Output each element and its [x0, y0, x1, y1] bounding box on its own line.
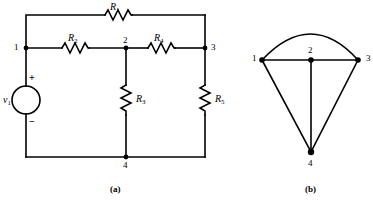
resistor-label-R4: R4 — [154, 33, 164, 45]
resistor-R3-symbol — [121, 85, 131, 115]
resistor-label-R1: R1 — [110, 2, 120, 14]
resistor-label-R2: R2 — [68, 33, 78, 45]
figure-container: R1 R2 R3 R4 R5 v1 + − 1 2 3 4 (a) 1 2 3 … — [0, 0, 373, 202]
figure-vector-layer — [0, 0, 373, 202]
wire-top-rail — [26, 15, 205, 48]
polarity-plus-sign: + — [29, 73, 35, 83]
junction-dot-node1 — [24, 46, 29, 51]
graph-node-dot-1 — [259, 57, 265, 63]
resistor-subscript-R5: 5 — [221, 98, 225, 106]
resistor-subscript-R2: 2 — [74, 37, 78, 45]
resistor-subscript-R1: 1 — [116, 6, 120, 14]
graph-node-label-3: 3 — [366, 54, 371, 63]
resistor-R5-symbol — [200, 85, 210, 115]
graph-node-label-1: 1 — [252, 54, 257, 63]
graph-node-label-2: 2 — [308, 46, 313, 55]
panel-a-caption: (a) — [110, 185, 121, 194]
junction-dot-node4 — [124, 155, 129, 160]
graph-node-dot-3 — [355, 57, 361, 63]
resistor-label-R3: R3 — [136, 94, 146, 106]
circuit-node-label-2: 2 — [123, 36, 128, 45]
resistor-subscript-R4: 4 — [160, 37, 164, 45]
circuit-node-label-4: 4 — [123, 161, 128, 170]
junction-dot-node2 — [124, 46, 129, 51]
graph-node-dot-2 — [308, 57, 314, 63]
graph-node-dots — [259, 57, 361, 155]
graph-edge-3-4 — [311, 60, 358, 152]
junction-dot-node3 — [203, 46, 208, 51]
voltage-source-symbol — [12, 86, 40, 114]
panel-b-caption: (b) — [305, 185, 316, 194]
polarity-minus-sign: − — [29, 117, 35, 127]
graph-node-dot-4 — [308, 149, 314, 155]
circuit-node-label-1: 1 — [14, 43, 19, 52]
resistor-subscript-R3: 3 — [142, 98, 146, 106]
circuit-node-label-3: 3 — [211, 43, 216, 52]
graph-node-label-4: 4 — [308, 159, 313, 168]
circuit-junction-dots — [24, 46, 208, 160]
graph-edge-1-4 — [262, 60, 311, 152]
voltage-source-subscript: 1 — [7, 99, 11, 107]
voltage-source-label: v1 — [3, 95, 11, 107]
resistor-label-R5: R5 — [215, 94, 225, 106]
